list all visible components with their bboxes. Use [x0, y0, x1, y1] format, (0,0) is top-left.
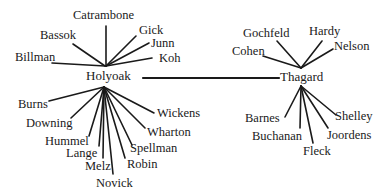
node-catrambone: Catrambone: [73, 9, 134, 22]
node-billman: Billman: [15, 51, 55, 64]
node-downing: Downing: [26, 117, 73, 130]
node-cohen: Cohen: [232, 45, 265, 58]
hub-node-thagard: Thagard: [280, 70, 323, 83]
node-wickens: Wickens: [157, 107, 200, 120]
node-wharton: Wharton: [147, 126, 191, 139]
node-barnes: Barnes: [245, 112, 280, 125]
node-robin: Robin: [127, 158, 158, 171]
hub-node-holyoak: Holyoak: [86, 69, 131, 82]
node-junn: Junn: [151, 37, 175, 50]
edge-nelson: [301, 49, 333, 68]
node-spellman: Spellman: [130, 142, 177, 155]
edge-barnes: [285, 86, 301, 117]
edge-hardy: [301, 41, 322, 68]
node-lange: Lange: [66, 147, 97, 160]
edge-billman: [52, 63, 105, 66]
node-bassok: Bassok: [40, 29, 76, 42]
node-melz: Melz: [85, 160, 111, 173]
node-shelley: Shelley: [335, 110, 373, 123]
edge-melz: [103, 87, 104, 158]
edge-wickens: [104, 87, 154, 113]
node-hardy: Hardy: [309, 25, 340, 38]
edge-buchanan: [300, 86, 301, 128]
node-nelson: Nelson: [334, 40, 369, 53]
node-joordens: Joordens: [327, 129, 371, 142]
node-burns: Burns: [18, 98, 48, 111]
node-koh: Koh: [159, 52, 181, 65]
node-novick: Novick: [96, 177, 133, 190]
node-gochfeld: Gochfeld: [243, 27, 290, 40]
node-gick: Gick: [139, 24, 163, 37]
node-fleck: Fleck: [303, 145, 331, 158]
node-buchanan: Buchanan: [252, 130, 302, 143]
edge-bassok: [73, 44, 105, 66]
